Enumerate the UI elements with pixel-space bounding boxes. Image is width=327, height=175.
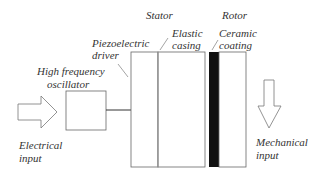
- elastic-casing-block: [158, 52, 205, 167]
- stator-label: Stator: [146, 9, 173, 21]
- electrical-input-label-2: input: [19, 152, 42, 164]
- oscillator-label-1: High frequency: [37, 65, 105, 77]
- rotor-block: [219, 52, 246, 167]
- oscillator-label-2: oscillator: [47, 78, 89, 90]
- rotor-label: Rotor: [222, 9, 247, 21]
- piezo-label-2: driver: [92, 49, 119, 61]
- elastic-label-2: casing: [172, 39, 201, 51]
- ceramic-label-2: coating: [219, 39, 252, 51]
- mechanical-input-arrow: [258, 80, 281, 128]
- piezo-label-1: Piezoelectric: [92, 37, 149, 49]
- ceramic-label-1: Ceramic: [219, 27, 257, 39]
- elastic-label-1: Elastic: [172, 27, 203, 39]
- piezo-driver-block: [131, 52, 158, 167]
- electrical-input-label-1: Electrical: [19, 139, 62, 151]
- ceramic-coating-block: [209, 52, 219, 167]
- mechanical-input-label-2: input: [256, 149, 279, 161]
- oscillator-box: [66, 91, 106, 130]
- electrical-input-arrow: [18, 96, 57, 128]
- mechanical-input-label-1: Mechanical: [256, 136, 308, 148]
